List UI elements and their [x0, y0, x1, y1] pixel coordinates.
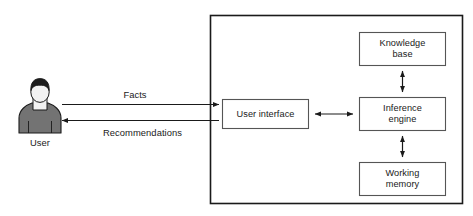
working-memory-box[interactable]: Working memory [360, 168, 445, 190]
knowledge-base-box[interactable]: Knowledge base [360, 38, 445, 60]
user-label: User [18, 137, 62, 148]
inference-engine-box[interactable]: Inference engine [360, 103, 445, 125]
facts-label: Facts [100, 89, 170, 100]
diagram-canvas: User Facts Recommendations User interfac… [0, 0, 473, 216]
person-icon [19, 79, 61, 133]
user-interface-box[interactable]: User interface [223, 109, 308, 120]
recommendations-label: Recommendations [85, 127, 200, 138]
